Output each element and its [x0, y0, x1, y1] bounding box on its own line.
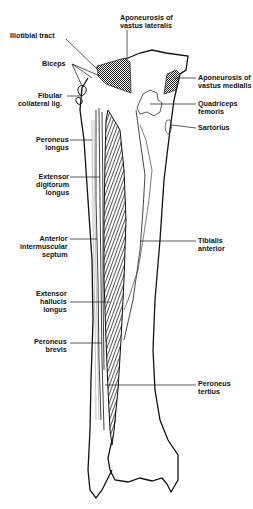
- label-anterior-intermuscular-septum: Anterior intermuscular septum: [20, 235, 68, 260]
- label-aponeurosis-vastus-lateralis: Aponeurosis of vastus lateralis: [120, 14, 173, 30]
- label-peroneus-brevis: Peroneus brevis: [34, 338, 67, 354]
- label-quadriceps-femoris: Quadriceps femoris: [198, 100, 238, 116]
- label-tibialis-anterior: Tibialis anterior: [198, 237, 225, 253]
- tibia-crest: [124, 110, 145, 340]
- label-fibular-collateral-lig: Fibular collateral lig.: [18, 92, 62, 108]
- label-biceps: Biceps: [42, 60, 66, 68]
- label-peroneus-tertius: Peroneus tertius: [198, 380, 231, 396]
- label-extensor-digitorum-longus: Extensor digitorum longus: [36, 173, 69, 198]
- tibialis-anterior-curve: [124, 125, 152, 310]
- label-iliotibial-tract: Iliotibial tract: [10, 32, 55, 40]
- aponeurosis-vastus-medialis-region: [164, 70, 180, 94]
- label-sartorius: Sartorius: [198, 124, 230, 132]
- quadriceps-region: [137, 90, 162, 116]
- label-peroneus-longus: Peroneus longus: [36, 136, 69, 152]
- label-aponeurosis-vastus-medialis: Aponeurosis of vastus medialis: [198, 74, 252, 90]
- tendon-lines: [96, 108, 104, 430]
- label-extensor-hallucis-longus: Extensor hallucis longus: [36, 290, 67, 315]
- aponeurosis-vastus-lateralis-region: [97, 58, 131, 93]
- extensor-muscle-band: [104, 110, 126, 445]
